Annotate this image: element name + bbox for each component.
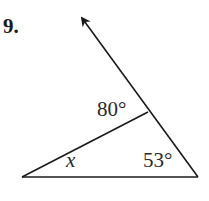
angle-label-53: 53°: [143, 148, 172, 172]
angle-label-80: 80°: [97, 97, 126, 121]
triangle-diagram: 80° 53° x: [0, 0, 209, 201]
side-line: [22, 112, 148, 177]
angle-label-x: x: [65, 148, 76, 172]
